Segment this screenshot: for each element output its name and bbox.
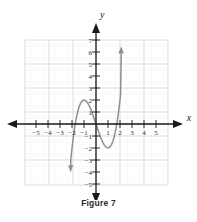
x-tick-label--4: −4 bbox=[44, 129, 52, 137]
y-tick-label-3: 3 bbox=[89, 85, 93, 93]
y-tick-label--4: −4 bbox=[85, 169, 93, 177]
y-tick-label-5: 5 bbox=[89, 61, 93, 69]
x-tick-label-2: 2 bbox=[118, 129, 122, 137]
figure-7-container: −5 −4 −3 −2 −1 1 2 3 4 5 7 6 5 4 3 2 1 −… bbox=[0, 0, 197, 222]
x-axis-label: x bbox=[186, 112, 192, 123]
y-tick-label-4: 4 bbox=[89, 73, 93, 81]
x-tick-label--2: −2 bbox=[68, 129, 76, 137]
y-axis-arrow-up-icon bbox=[92, 23, 100, 33]
x-tick-label-4: 4 bbox=[142, 129, 146, 137]
x-tick-label-3: 3 bbox=[130, 129, 134, 137]
x-tick-label-5: 5 bbox=[154, 129, 158, 137]
figure-caption: Figure 7 bbox=[0, 198, 197, 208]
y-tick-label--2: −2 bbox=[85, 145, 93, 153]
y-tick-labels: 7 6 5 4 3 2 1 −1 −2 −3 −4 −5 bbox=[85, 37, 93, 189]
y-tick-label-2: 2 bbox=[89, 97, 93, 105]
x-tick-label--3: −3 bbox=[56, 129, 64, 137]
y-tick-label--5: −5 bbox=[85, 181, 93, 189]
y-tick-label--1: −1 bbox=[85, 133, 93, 141]
cubic-graph-plot: −5 −4 −3 −2 −1 1 2 3 4 5 7 6 5 4 3 2 1 −… bbox=[0, 0, 197, 200]
y-tick-label-7: 7 bbox=[89, 37, 93, 45]
y-tick-label-1: 1 bbox=[89, 109, 93, 117]
y-axis bbox=[92, 23, 100, 200]
x-axis-arrow-left-icon bbox=[7, 120, 17, 128]
curve-tail-upper-right bbox=[121, 53, 122, 94]
y-axis-label: y bbox=[99, 9, 105, 20]
y-tick-label-6: 6 bbox=[89, 49, 93, 57]
y-tick-label--3: −3 bbox=[85, 157, 93, 165]
x-axis-arrow-right-icon bbox=[173, 120, 183, 128]
x-tick-label--5: −5 bbox=[32, 129, 40, 137]
x-tick-label-1: 1 bbox=[106, 129, 110, 137]
